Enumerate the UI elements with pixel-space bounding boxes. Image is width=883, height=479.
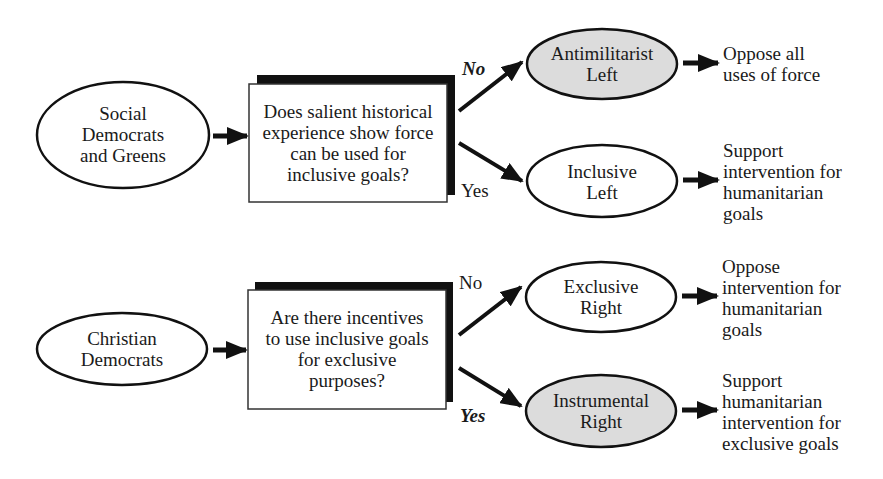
arrow-yes-2 bbox=[459, 368, 521, 406]
source-label-christian-democrats: Christian Democrats bbox=[37, 328, 207, 370]
policy-label-2a: Oppose intervention for humanitarian goa… bbox=[722, 256, 841, 340]
policy-label-1b: Support intervention for humanitarian go… bbox=[723, 140, 842, 224]
question-label-2: Are there incentives to use inclusive go… bbox=[248, 307, 446, 391]
arrow-yes-1 bbox=[459, 143, 522, 181]
branch-label-yes-1: Yes bbox=[461, 180, 489, 201]
policy-label-2b: Support humanitarian intervention for ex… bbox=[722, 370, 841, 454]
policy-label-1a: Oppose all uses of force bbox=[723, 43, 820, 85]
outcome-label-antimilitarist-left: Antimilitarist Left bbox=[527, 43, 677, 85]
arrow-no-2 bbox=[459, 287, 521, 335]
source-label-social-democrats: Social Democrats and Greens bbox=[37, 103, 209, 166]
outcome-label-exclusive-right: Exclusive Right bbox=[526, 276, 676, 318]
branch-label-no-2: No bbox=[459, 272, 482, 293]
branch-label-no-1: No bbox=[462, 58, 485, 79]
question-label-1: Does salient historical experience show … bbox=[249, 101, 447, 185]
branch-label-yes-2: Yes bbox=[460, 405, 485, 426]
outcome-label-inclusive-left: Inclusive Left bbox=[527, 161, 677, 203]
outcome-label-instrumental-right: Instrumental Right bbox=[526, 390, 676, 432]
